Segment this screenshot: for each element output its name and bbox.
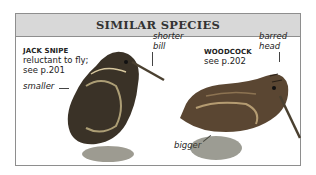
label-smaller: smaller (23, 81, 54, 91)
woodcock-illustration-icon (176, 56, 301, 164)
label-head: head (259, 41, 280, 51)
label-barred: barred (259, 31, 287, 41)
similar-species-panel: SIMILAR SPECIES JACK SNIPE reluctant to … (15, 13, 301, 166)
jack-snipe-illustration-icon (56, 36, 166, 164)
